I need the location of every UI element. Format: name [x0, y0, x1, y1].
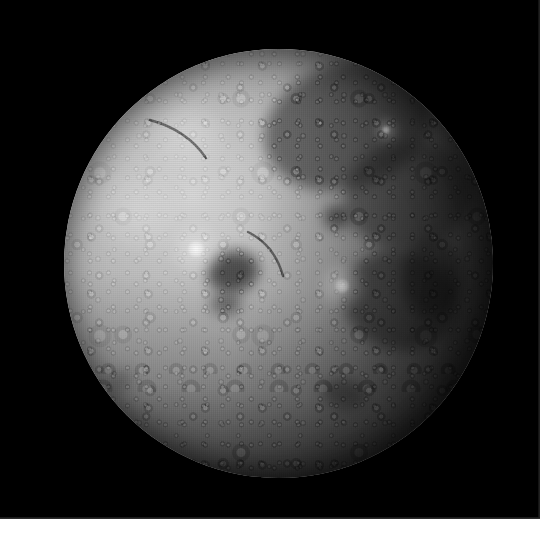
moon-photograph: Moon [0, 0, 552, 553]
limb-vignette [64, 49, 493, 478]
moon-disk-container [64, 49, 493, 478]
sky-background [0, 0, 540, 519]
moon-disk [64, 49, 493, 478]
page-margin-bottom [0, 519, 552, 553]
page-margin-right [540, 0, 552, 553]
